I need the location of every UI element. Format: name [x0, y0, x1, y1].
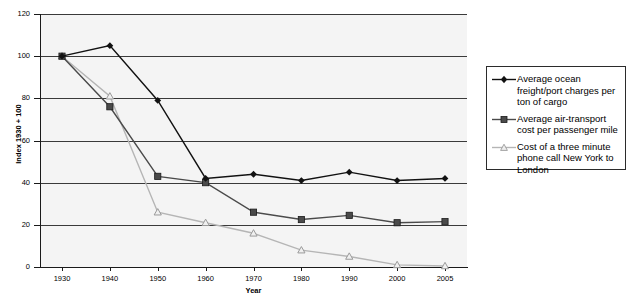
square-data-point [298, 216, 304, 222]
square-data-point [155, 173, 161, 179]
triangle-marker-icon [491, 142, 517, 153]
legend-label: Cost of a three minute phone call New Yo… [517, 141, 621, 176]
series-square [59, 53, 448, 226]
square-data-point [250, 209, 256, 215]
legend-label: Average air-transport cost per passenger… [517, 113, 621, 136]
series-line [62, 46, 445, 181]
legend-item[interactable]: Average air-transport cost per passenger… [491, 113, 621, 136]
diamond-data-point [298, 177, 305, 184]
square-data-point [107, 104, 113, 110]
square-data-point [346, 212, 352, 218]
chart-figure: 020406080100120 193019401950196019701980… [0, 0, 641, 303]
series-triangle [58, 53, 448, 269]
square-data-point [394, 220, 400, 226]
diamond-data-point [250, 171, 257, 178]
triangle-data-point [154, 209, 161, 215]
diamond-marker-icon [491, 74, 517, 85]
legend-item[interactable]: Average ocean freight/port charges per t… [491, 73, 621, 108]
legend-label: Average ocean freight/port charges per t… [517, 73, 621, 108]
diamond-data-point [346, 169, 353, 176]
legend-item[interactable]: Cost of a three minute phone call New Yo… [491, 141, 621, 176]
diamond-data-point [394, 177, 401, 184]
square-marker-icon [491, 114, 517, 125]
series-line [62, 56, 445, 223]
diamond-data-point [442, 175, 449, 182]
legend: Average ocean freight/port charges per t… [486, 66, 626, 170]
square-data-point [442, 219, 448, 225]
